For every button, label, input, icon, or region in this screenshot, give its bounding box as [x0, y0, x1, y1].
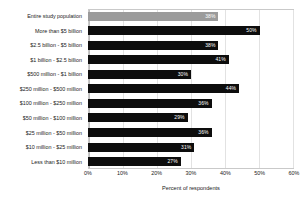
bar-row: 31%	[88, 140, 294, 155]
category-axis-labels: Entire study populationMore than $5 bill…	[0, 9, 85, 169]
bar-value-label: 44%	[226, 86, 239, 91]
bar-series: 38%50%38%41%30%44%36%29%36%31%27%	[88, 9, 294, 169]
x-axis-tick: 0%	[84, 170, 92, 177]
bar: 36%	[88, 99, 212, 108]
x-axis-tick-labels: 0%10%20%30%40%50%60%	[88, 170, 294, 180]
bar-chart: Entire study populationMore than $5 bill…	[0, 0, 305, 201]
category-label: $250 million - $500 million	[0, 82, 85, 97]
bar-value-label: 29%	[174, 115, 187, 120]
bar-row: 38%	[88, 9, 294, 24]
category-label: Less than $10 million	[0, 154, 85, 169]
x-axis-title: Percent of respondents	[88, 185, 294, 192]
bar-value-label: 50%	[246, 28, 259, 33]
bar-row: 36%	[88, 96, 294, 111]
category-label: $500 million - $1 billion	[0, 67, 85, 82]
bar-row: 44%	[88, 82, 294, 97]
bar: 44%	[88, 84, 239, 93]
bar: 50%	[88, 26, 260, 35]
category-label: $10 million - $25 million	[0, 140, 85, 155]
category-label: $50 million - $100 million	[0, 111, 85, 126]
bar-value-label: 38%	[205, 43, 218, 48]
bar: 30%	[88, 70, 191, 79]
bar: 41%	[88, 55, 229, 64]
category-label: $2.5 billion - $5 billion	[0, 38, 85, 53]
bar: 38%	[88, 12, 218, 21]
bar-value-label: 31%	[181, 145, 194, 150]
bar-value-label: 36%	[198, 130, 211, 135]
bar-value-label: 27%	[167, 159, 180, 164]
bar-row: 41%	[88, 53, 294, 68]
bar: 29%	[88, 113, 188, 122]
bar: 36%	[88, 128, 212, 137]
bar-value-label: 38%	[205, 14, 218, 19]
bar: 27%	[88, 157, 181, 166]
category-label: More than $5 billion	[0, 24, 85, 39]
bar-row: 27%	[88, 154, 294, 169]
bar-row: 29%	[88, 111, 294, 126]
category-label: $100 million - $250 million	[0, 96, 85, 111]
bar-row: 30%	[88, 67, 294, 82]
category-label: $25 million - $50 million	[0, 125, 85, 140]
x-axis-tick: 50%	[254, 170, 265, 177]
category-label: $1 billion - $2.5 billion	[0, 53, 85, 68]
x-axis-tick: 40%	[220, 170, 231, 177]
bar-row: 36%	[88, 125, 294, 140]
bar-value-label: 36%	[198, 101, 211, 106]
x-axis-tick: 20%	[151, 170, 162, 177]
bar-row: 50%	[88, 24, 294, 39]
x-axis-tick: 60%	[289, 170, 300, 177]
bar-value-label: 41%	[215, 57, 228, 62]
bar-value-label: 30%	[178, 72, 191, 77]
bar: 31%	[88, 143, 194, 152]
x-axis-tick: 10%	[117, 170, 128, 177]
category-label: Entire study population	[0, 9, 85, 24]
bar-row: 38%	[88, 38, 294, 53]
x-axis-tick: 30%	[186, 170, 197, 177]
bar: 38%	[88, 41, 218, 50]
